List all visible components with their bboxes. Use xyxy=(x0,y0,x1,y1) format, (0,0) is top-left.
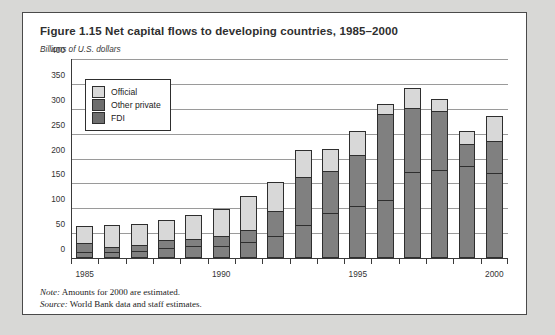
bar-1985 xyxy=(76,226,93,258)
legend-swatch-fdi xyxy=(92,112,105,124)
bar-1992 xyxy=(267,182,284,258)
bar-1997 xyxy=(404,88,421,258)
bar-segment-official xyxy=(404,88,421,108)
bar-segment-fdi xyxy=(404,172,421,258)
x-axis-tick xyxy=(371,259,372,264)
chart-plot-area: 050100150200250300350400 198519901995200… xyxy=(71,59,508,259)
x-axis-tick xyxy=(180,259,181,264)
bar-1991 xyxy=(240,196,257,258)
bar-segment-official xyxy=(267,182,284,210)
bar-segment-official xyxy=(185,215,202,239)
bar-segment-fdi xyxy=(185,246,202,258)
note-label: Note: xyxy=(40,287,60,297)
x-axis-tick xyxy=(317,259,318,264)
bar-segment-official xyxy=(104,225,121,247)
bar-segment-official xyxy=(158,220,175,240)
bar-segment-official xyxy=(240,196,257,230)
bar-segment-other-private xyxy=(322,171,339,213)
gridline xyxy=(71,59,508,60)
bar-segment-fdi xyxy=(459,166,476,258)
y-axis-tick-label: 250 xyxy=(51,120,65,130)
bar-segment-official xyxy=(459,131,476,143)
bar-segment-fdi xyxy=(295,225,312,258)
bar-segment-official xyxy=(131,224,148,245)
bar-segment-fdi xyxy=(431,170,448,258)
x-axis-tick-label: 1990 xyxy=(212,269,230,279)
x-axis-tick xyxy=(290,259,291,264)
y-axis-tick-label: 0 xyxy=(60,244,65,254)
x-axis-tick-label: 2000 xyxy=(485,269,503,279)
bar-segment-fdi xyxy=(267,236,284,258)
x-axis-tick xyxy=(235,259,236,264)
source-label: Source: xyxy=(40,299,68,309)
bar-1994 xyxy=(322,149,339,258)
bar-segment-fdi xyxy=(158,248,175,258)
y-axis-tick-label: 150 xyxy=(51,169,65,179)
bar-segment-other-private xyxy=(377,114,394,200)
legend-swatch-other-private xyxy=(92,99,105,111)
bar-1989 xyxy=(185,215,202,258)
source-text: World Bank data and staff estimates. xyxy=(68,299,202,309)
legend-label-official: Official xyxy=(111,87,137,97)
bar-segment-other-private xyxy=(431,111,448,171)
bar-segment-other-private xyxy=(185,239,202,246)
bar-2000 xyxy=(486,116,503,258)
figure-title: Figure 1.15 Net capital flows to develop… xyxy=(40,25,398,37)
note-line: Note: Amounts for 2000 are estimated. xyxy=(40,286,202,298)
bar-segment-other-private xyxy=(459,144,476,166)
bar-segment-other-private xyxy=(295,177,312,225)
legend-label-other-private: Other private xyxy=(111,100,161,110)
bar-segment-other-private xyxy=(240,230,257,242)
x-axis-line xyxy=(71,258,508,259)
note-text: Amounts for 2000 are estimated. xyxy=(60,287,180,297)
x-axis-tick xyxy=(153,259,154,264)
bar-1987 xyxy=(131,224,148,258)
bar-segment-official xyxy=(213,209,230,236)
bar-segment-official xyxy=(377,104,394,114)
bar-1999 xyxy=(459,131,476,258)
bar-segment-fdi xyxy=(213,246,230,258)
bar-1993 xyxy=(295,150,312,258)
x-axis-tick xyxy=(262,259,263,264)
bar-segment-other-private xyxy=(349,155,366,206)
y-axis-tick-label: 200 xyxy=(51,145,65,155)
legend-item-fdi: FDI xyxy=(92,112,161,124)
bar-1986 xyxy=(104,225,121,258)
bar-segment-official xyxy=(322,149,339,171)
legend-item-other-private: Other private xyxy=(92,99,161,111)
legend-swatch-official xyxy=(92,86,105,98)
x-axis-tick xyxy=(126,259,127,264)
bar-segment-official xyxy=(431,99,448,111)
bar-segment-fdi xyxy=(240,242,257,258)
y-axis-tick-label: 350 xyxy=(51,70,65,80)
bar-1990 xyxy=(213,209,230,258)
legend-label-fdi: FDI xyxy=(111,113,125,123)
bar-segment-official xyxy=(295,150,312,178)
bar-1996 xyxy=(377,104,394,258)
bar-segment-other-private xyxy=(76,243,93,252)
bar-segment-official xyxy=(76,226,93,243)
bar-1995 xyxy=(349,131,366,258)
y-axis-tick-label: 50 xyxy=(56,219,65,229)
bar-1998 xyxy=(431,99,448,258)
x-axis-tick xyxy=(426,259,427,264)
bar-segment-fdi xyxy=(349,206,366,258)
legend-item-official: Official xyxy=(92,86,161,98)
figure-notes: Note: Amounts for 2000 are estimated. So… xyxy=(40,286,202,310)
x-axis-tick xyxy=(98,259,99,264)
y-axis-tick-label: 400 xyxy=(51,45,65,55)
figure-frame: Figure 1.15 Net capital flows to develop… xyxy=(22,12,527,315)
bar-1988 xyxy=(158,220,175,258)
x-axis-tick xyxy=(507,259,508,264)
bar-segment-official xyxy=(349,131,366,155)
y-axis-line xyxy=(71,59,72,259)
x-axis-tick xyxy=(71,259,72,264)
y-axis-tick-label: 300 xyxy=(51,95,65,105)
bar-segment-official xyxy=(486,116,503,141)
x-axis-tick xyxy=(453,259,454,264)
x-axis-tick xyxy=(208,259,209,264)
bar-segment-fdi xyxy=(486,173,503,258)
bar-segment-other-private xyxy=(486,141,503,173)
bar-segment-fdi xyxy=(377,200,394,258)
x-axis-tick xyxy=(399,259,400,264)
